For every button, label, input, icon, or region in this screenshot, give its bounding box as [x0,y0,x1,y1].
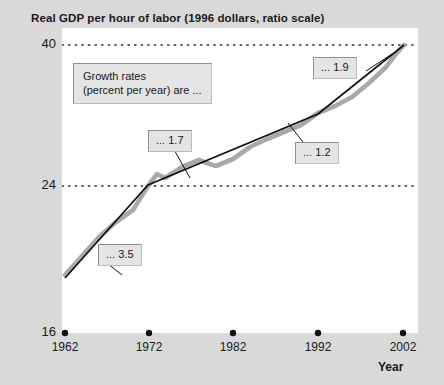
x-axis-title: Year [378,360,403,374]
x-axis-dot-1992 [315,330,321,336]
callout-legend-line1: Growth rates [83,69,202,83]
x-axis-dot-1962 [62,330,68,336]
callout-growth-rates-legend: Growth rates (percent per year) are ... [73,63,212,104]
callout-legend-line2: (percent per year) are ... [83,83,202,97]
x-axis-dot-1982 [230,330,236,336]
x-axis-tick-1982: 1982 [203,340,263,354]
y-axis-tick-24: 24 [22,177,56,192]
x-axis-tick-1972: 1972 [119,340,179,354]
x-axis-tick-1992: 1992 [288,340,348,354]
x-axis-markers [0,326,444,340]
figure-panel: Real GDP per hour of labor (1996 dollars… [0,0,444,385]
callout-rate-1.2: ... 1.2 [295,142,339,164]
x-axis-dot-2002 [400,330,406,336]
y-axis-tick-40: 40 [22,36,56,51]
chart-title: Real GDP per hour of labor (1996 dollars… [31,12,324,24]
callout-rate-1.9: ... 1.9 [313,57,357,79]
x-axis-dot-1972 [146,330,152,336]
x-axis-tick-2002: 2002 [373,340,433,354]
callout-rate-3.5: ... 3.5 [98,244,142,266]
x-axis-tick-1962: 1962 [35,340,95,354]
callout-rate-1.7: ... 1.7 [148,130,192,152]
